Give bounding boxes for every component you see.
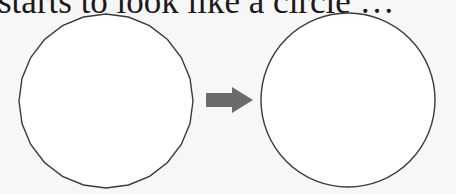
circle-shape — [261, 13, 435, 187]
polygon-to-circle-diagram — [0, 0, 456, 194]
right-arrow-icon — [206, 87, 253, 113]
polygon-shape — [19, 14, 193, 188]
